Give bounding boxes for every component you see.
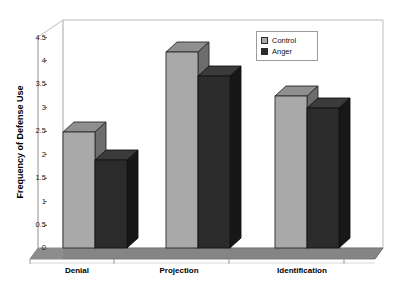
legend-item-control: Control [261, 35, 313, 46]
bar-denial-anger [95, 150, 138, 248]
depth-edge-bottom-right [375, 248, 383, 259]
y-tick-label-1: 1 [24, 198, 46, 206]
y-tick-label-4.5: 4.5 [24, 34, 46, 42]
y-axis-ticks: 4.5 4 3.5 3 2.5 2 1.5 1 0.5 0 [20, 0, 46, 283]
y-tick-mark-1.5 [44, 178, 47, 179]
x-tick-label-identification: Identification [252, 266, 352, 275]
y-tick-mark-1 [44, 201, 47, 202]
bar-chart: Frequency of Defense Use [0, 0, 394, 283]
bar-identification-anger [307, 98, 350, 248]
bar-projection-control [166, 42, 209, 248]
legend: Control Anger [256, 31, 318, 61]
y-tick-label-4: 4 [24, 57, 46, 65]
y-tick-mark-4 [44, 60, 47, 61]
legend-swatch-anger-icon [261, 48, 268, 55]
bar-projection-anger [198, 66, 241, 248]
y-tick-label-2: 2 [24, 151, 46, 159]
bar-identification-control [275, 86, 318, 248]
y-tick-label-0.5: 0.5 [24, 221, 46, 229]
x-tick-label-denial: Denial [42, 266, 112, 275]
plot-back-wall [63, 20, 383, 248]
y-tick-label-3: 3 [24, 104, 46, 112]
legend-label-anger: Anger [272, 47, 292, 56]
legend-item-anger: Anger [261, 46, 313, 57]
y-tick-mark-0 [44, 248, 47, 249]
y-tick-label-0: 0 [24, 244, 46, 252]
legend-label-control: Control [272, 36, 296, 45]
y-tick-mark-4.5 [44, 37, 47, 38]
bar-denial-control [63, 122, 106, 248]
y-tick-label-1.5: 1.5 [24, 174, 46, 182]
y-tick-mark-2 [44, 154, 47, 155]
plot-floor [30, 248, 383, 259]
y-tick-mark-2.5 [44, 131, 47, 132]
y-tick-mark-0.5 [44, 225, 47, 226]
y-tick-mark-3.5 [44, 84, 47, 85]
y-tick-label-3.5: 3.5 [24, 80, 46, 88]
plot-3d-frame [0, 0, 394, 283]
y-tick-mark-3 [44, 107, 47, 108]
x-tick-label-projection: Projection [137, 266, 221, 275]
legend-swatch-control-icon [261, 37, 268, 44]
y-tick-label-2.5: 2.5 [24, 127, 46, 135]
